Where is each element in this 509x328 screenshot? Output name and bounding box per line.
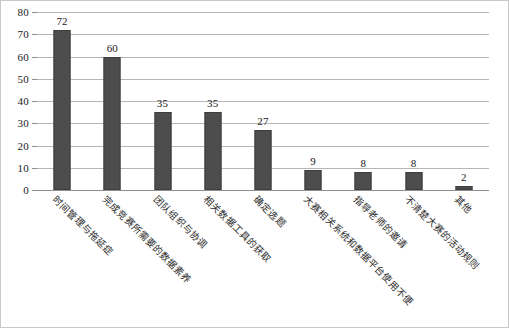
bar[interactable]: [405, 172, 422, 190]
bar-value-label: 35: [157, 97, 168, 109]
x-axis-category-label: 大赛相关系统和数据平台使用不便: [303, 194, 416, 307]
bar[interactable]: [305, 170, 322, 190]
y-tick-label: 70: [18, 28, 29, 40]
bar[interactable]: [54, 30, 71, 190]
bar[interactable]: [104, 57, 121, 191]
bar-value-label: 60: [107, 42, 118, 54]
y-tick-label: 20: [18, 140, 29, 152]
x-axis-category-label: 其他: [453, 194, 474, 215]
x-axis-category-label: 指导老师的邀请: [353, 194, 409, 250]
x-axis-labels: 时间管理与拖延症完成竞赛所需要的数据素养团队组织与协调相关数据工具的获取确定选题…: [37, 190, 489, 328]
bars-layer: 72603535279882: [37, 12, 489, 190]
bar-slot: 60: [87, 12, 137, 190]
x-axis-category-label: 团队组织与协调: [152, 194, 208, 250]
x-axis-category-label: 完成竞赛所需要的数据素养: [102, 194, 194, 286]
bar-slot: 8: [338, 12, 388, 190]
bar[interactable]: [204, 112, 221, 190]
bar-value-label: 72: [56, 15, 67, 27]
bar[interactable]: [355, 172, 372, 190]
bar-slot: 2: [439, 12, 489, 190]
x-axis-category-label: 确定选题: [252, 194, 287, 229]
y-tick-label: 30: [18, 117, 29, 129]
x-axis-category-text: 完成竞赛所需要的数据素养: [102, 194, 194, 286]
x-axis-category-text: 团队组织与协调: [152, 194, 208, 250]
x-axis-category-text: 大赛相关系统和数据平台使用不便: [302, 194, 415, 307]
bar-value-label: 8: [361, 157, 367, 169]
y-tick-label: 0: [23, 184, 29, 196]
y-tick-label: 80: [18, 6, 29, 18]
y-tick-label: 50: [18, 73, 29, 85]
y-tick-label: 10: [18, 162, 29, 174]
x-axis-category-text: 指导老师的邀请: [353, 194, 409, 250]
bar[interactable]: [154, 112, 171, 190]
y-tick-label: 40: [18, 95, 29, 107]
x-axis-category-text: 确定选题: [252, 194, 287, 229]
bar-value-label: 2: [461, 171, 467, 183]
bar-slot: 35: [137, 12, 187, 190]
bar-value-label: 8: [411, 157, 417, 169]
y-axis: 01020304050607080: [1, 12, 37, 190]
bar-slot: 72: [37, 12, 87, 190]
bar-slot: 8: [389, 12, 439, 190]
bar-value-label: 27: [257, 115, 268, 127]
bar[interactable]: [254, 130, 271, 190]
bar-chart: 01020304050607080 72603535279882 时间管理与拖延…: [0, 0, 509, 328]
bar-value-label: 9: [310, 155, 316, 167]
bar-slot: 27: [238, 12, 288, 190]
bar-slot: 35: [188, 12, 238, 190]
bar-value-label: 35: [207, 97, 218, 109]
x-axis-category-text: 其他: [453, 194, 474, 215]
y-tick-label: 60: [18, 51, 29, 63]
bar-slot: 9: [288, 12, 338, 190]
